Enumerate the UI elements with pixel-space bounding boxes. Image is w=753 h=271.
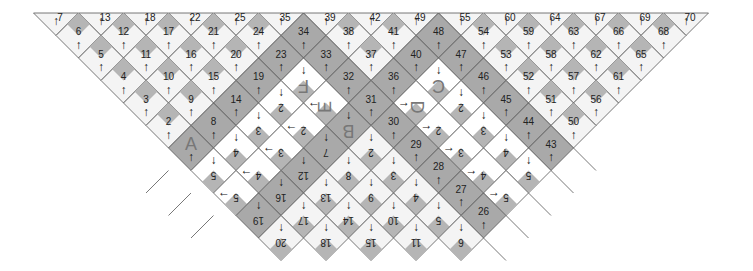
arrow-down-icon: ↓ — [346, 198, 352, 212]
cell-number: 29 — [410, 139, 422, 150]
arrow-up-icon: ↑ — [458, 195, 464, 209]
arrow-down-icon: ↓ — [391, 153, 397, 167]
region-letter: B — [342, 121, 354, 141]
cell-number: 58 — [545, 49, 557, 60]
arrow-up-icon: ↑ — [323, 60, 329, 74]
cell-number: 15 — [365, 237, 377, 248]
cell-number: 41 — [388, 26, 400, 37]
cell-number: 20 — [230, 49, 242, 60]
cell-number: 2 — [368, 147, 374, 158]
arrow-up-icon: ↑ — [188, 105, 194, 119]
cell-number: 69 — [639, 12, 651, 23]
cell-number: 4 — [233, 147, 239, 158]
cell-number: 4 — [121, 71, 127, 82]
diamond-lattice-diagram: ↑7↑13↑18↑22↑25↑35↑39↑42↑49↑55↑60↑64↑67↑6… — [0, 0, 753, 271]
arrow-up-icon: ↑ — [571, 38, 577, 52]
arrow-up-icon: ↑ — [166, 38, 172, 52]
arrow-up-icon: ↑ — [368, 105, 374, 119]
cell-number: 9 — [368, 192, 374, 203]
cell-number: 66 — [613, 26, 625, 37]
cell-number: 35 — [279, 12, 291, 23]
edge-line — [574, 148, 597, 171]
cell-number: 23 — [275, 49, 287, 60]
region-letter: D — [407, 101, 427, 114]
arrow-down-icon: ↓ — [278, 175, 284, 189]
cell-number: 26 — [478, 206, 490, 217]
cell-number: 55 — [459, 12, 471, 23]
arrow-up-icon: ↑ — [346, 83, 352, 97]
cell-number: 36 — [388, 71, 400, 82]
cell-number: 4 — [503, 147, 509, 158]
arrow-up-icon: ↑ — [616, 38, 622, 52]
cell-number: 33 — [320, 49, 332, 60]
cell-number: 14 — [343, 215, 355, 226]
cell-number: 2 — [278, 102, 284, 113]
cell-number: 4 — [255, 170, 261, 181]
arrow-up-icon: ↑ — [211, 38, 217, 52]
cell-number: 51 — [545, 94, 557, 105]
arrow-up-icon: ↑ — [436, 38, 442, 52]
arrow-up-icon: ↑ — [391, 83, 397, 97]
cell-number: 47 — [455, 49, 467, 60]
cell-number: 12 — [118, 26, 130, 37]
edge-line — [529, 193, 552, 216]
arrow-up-icon: ↑ — [571, 128, 577, 142]
cell-number: 50 — [568, 116, 580, 127]
arrow-down-icon: ↓ — [346, 153, 352, 167]
cell-number: 2 — [435, 125, 441, 136]
arrow-down-icon: ↓ — [233, 130, 239, 144]
arrow-up-icon: ↑ — [481, 83, 487, 97]
cell-number: 38 — [343, 26, 355, 37]
arrow-down-icon: ↓ — [211, 153, 217, 167]
arrow-up-icon: ↑ — [526, 38, 532, 52]
arrow-up-icon: ↑ — [211, 83, 217, 97]
cell-number: 67 — [594, 12, 606, 23]
cell-number: 13 — [320, 192, 332, 203]
arrow-up-icon: ↑ — [548, 60, 554, 74]
arrow-down-icon: ↓ — [391, 198, 397, 212]
cell-number: 28 — [433, 161, 445, 172]
arrow-up-icon: ↑ — [121, 38, 127, 52]
cell-number: 18 — [320, 237, 332, 248]
cell-number: 64 — [549, 12, 561, 23]
arrow-up-icon: ↑ — [503, 60, 509, 74]
cell-number: 5 — [210, 170, 216, 181]
arrow-up-icon: ↑ — [143, 60, 149, 74]
arrow-down-icon: ↓ — [323, 130, 329, 144]
cell-number: 16 — [275, 192, 287, 203]
arrow-down-icon: ↓ — [301, 63, 307, 77]
cell-number: 24 — [253, 26, 265, 37]
cell-number: 14 — [230, 94, 242, 105]
edge-line — [146, 171, 169, 194]
cell-number: 5 — [525, 170, 531, 181]
edge-line — [551, 171, 574, 194]
cell-number: 8 — [345, 170, 351, 181]
arrow-up-icon: ↑ — [233, 60, 239, 74]
arrow-up-icon: ↑ — [143, 105, 149, 119]
cell-number: 4 — [413, 192, 419, 203]
cell-number: 21 — [208, 26, 220, 37]
cell-number: 7 — [57, 12, 63, 23]
edge-line — [191, 216, 214, 239]
arrow-up-icon: ↑ — [278, 60, 284, 74]
cell-number: 42 — [369, 12, 381, 23]
arrow-down-icon: ↓ — [436, 198, 442, 212]
arrow-down-icon: ↓ — [256, 108, 262, 122]
arrow-up-icon: ↑ — [526, 83, 532, 97]
region-letter: E — [315, 101, 335, 113]
arrow-left-icon: ← — [286, 118, 298, 132]
region-letter: C — [432, 76, 445, 96]
cell-number: 37 — [365, 49, 377, 60]
cell-number: 16 — [185, 49, 197, 60]
cell-number: 45 — [500, 94, 512, 105]
cell-number: 5 — [435, 215, 441, 226]
cell-number: 32 — [343, 71, 355, 82]
arrow-right-icon: → — [421, 118, 433, 132]
cell-number: 70 — [684, 12, 696, 23]
cell-number: 49 — [414, 12, 426, 23]
edge-line — [169, 193, 192, 216]
cell-number: 12 — [298, 170, 310, 181]
region-letter: F — [298, 76, 309, 96]
cell-number: 6 — [458, 237, 464, 248]
arrow-up-icon: ↑ — [481, 38, 487, 52]
